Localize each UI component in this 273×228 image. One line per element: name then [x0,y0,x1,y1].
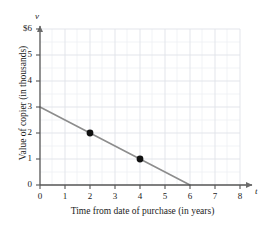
x-axis-variable-label: t [255,186,258,196]
x-tick-label: 2 [82,191,98,201]
x-tick-label: 6 [182,191,198,201]
x-tick-label: 7 [207,191,223,201]
x-axis-title: Time from date of purchase (in years) [40,206,245,216]
x-tick-label: 1 [57,191,73,201]
x-tick-label: 0 [32,191,48,201]
x-tick-label: 5 [157,191,173,201]
x-tick-label: 4 [132,191,148,201]
x-tick-label: 3 [107,191,123,201]
linear-depreciation-chart: v t $6 5 4 3 2 1 0 0 1 2 3 4 5 6 7 8 Val… [0,0,273,228]
y-axis-title: Value of copier (in thousands) [16,18,30,188]
y-axis-variable-label: v [35,11,39,21]
data-point [137,156,144,163]
data-point [87,130,94,137]
x-tick-label: 8 [232,191,248,201]
